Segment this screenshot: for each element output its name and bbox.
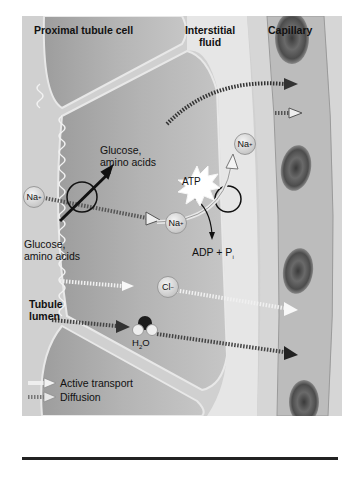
legend-diffusion: Diffusion [60,391,101,403]
label-capillary: Capillary [268,24,312,36]
sodium-ion-cell: Na+ [165,212,187,234]
label-glucose-cell: Glucose, amino acids [100,144,156,168]
bottom-divider [22,457,338,460]
label-adp-pi: ADP + Pi [192,246,234,263]
label-atp: ATP [182,176,201,188]
label-glucose-lumen: Glucose, amino acids [24,238,80,262]
label-tubule-lumen: Tubule lumen [29,298,63,322]
label-interstitial-fluid: Interstitial fluid [182,24,238,48]
chloride-ion: Cl− [157,276,179,298]
label-h2o: H2O [132,337,150,353]
legend-active-transport: Active transport [60,377,133,389]
transport-diagram: Proximal tubule cell Interstitial fluid … [22,16,342,416]
label-proximal-tubule-cell: Proximal tubule cell [34,24,133,36]
sodium-ion-lumen: Na+ [23,186,45,208]
sodium-ion-interstitial: Na+ [234,133,256,155]
